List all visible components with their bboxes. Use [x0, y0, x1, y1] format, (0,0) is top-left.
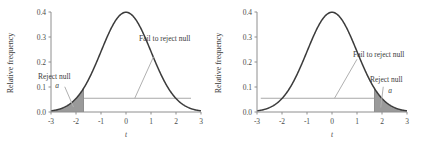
right-chart-svg: 0.4 0.3 0.2 0.1 0.0 -3 -2 -1 0 1 2 3 t R… [210, 0, 421, 146]
fail-leader-line-right [335, 59, 358, 98]
chart-panel-left: 0.4 0.3 0.2 0.1 0.0 -3 -2 -1 0 1 2 3 t R… [0, 0, 210, 146]
x-tick-label-1-left: 1 [149, 117, 153, 126]
reject-null-label-right: Reject null [370, 75, 403, 84]
left-chart-svg: 0.4 0.3 0.2 0.1 0.0 -3 -2 -1 0 1 2 3 t R… [0, 0, 210, 146]
y-tick-label-02-right: 0.2 [243, 58, 253, 67]
x-tick-label-1-right: 1 [355, 117, 359, 126]
fail-to-reject-label-right: Fail to reject null [353, 50, 404, 59]
alpha-symbol-right: a [388, 86, 392, 95]
x-tick-label-neg1-right: -1 [304, 117, 310, 126]
x-tick-label-neg2-right: -2 [279, 117, 285, 126]
y-axis-title-right: Relative frequency [214, 33, 223, 94]
fail-to-reject-label-left: Fail to reject null [139, 34, 190, 43]
y-axis-title-left: Relative frequency [6, 33, 15, 94]
x-tick-label-neg3-left: -3 [48, 117, 54, 126]
y-tick-label-04-right: 0.4 [243, 8, 253, 17]
x-tick-label-neg1-left: -1 [98, 117, 104, 126]
axis-ticks-right [255, 12, 408, 115]
x-tick-label-3-left: 3 [199, 117, 203, 126]
x-tick-label-neg2-left: -2 [73, 117, 79, 126]
distribution-curve-right [257, 12, 407, 111]
x-tick-label-neg3-right: -3 [254, 117, 260, 126]
y-tick-label-03-right: 0.3 [243, 33, 253, 42]
x-tick-label-2-right: 2 [380, 117, 384, 126]
axis-ticks-left [49, 12, 202, 115]
y-tick-label-02-left: 0.2 [37, 58, 47, 67]
y-tick-label-01-right: 0.1 [243, 83, 253, 92]
fail-leader-line-left [135, 57, 154, 99]
y-tick-label-04-left: 0.4 [37, 8, 47, 17]
x-tick-label-0-right: 0 [330, 117, 334, 126]
x-tick-label-2-left: 2 [174, 117, 178, 126]
y-tick-label-01-left: 0.1 [37, 83, 47, 92]
x-axis-title-right: t [331, 130, 334, 139]
y-tick-label-00-right: 0.0 [243, 108, 253, 117]
distribution-curve-left [51, 12, 201, 111]
y-tick-label-03-left: 0.3 [37, 33, 47, 42]
reject-null-label-left: Reject null [38, 72, 71, 81]
alpha-symbol-left: a [55, 81, 59, 90]
x-axis-title-left: t [125, 130, 128, 139]
y-tick-label-00-left: 0.0 [37, 108, 47, 117]
x-tick-label-0-left: 0 [124, 117, 128, 126]
two-panel-figure: 0.4 0.3 0.2 0.1 0.0 -3 -2 -1 0 1 2 3 t R… [0, 0, 421, 146]
chart-panel-right: 0.4 0.3 0.2 0.1 0.0 -3 -2 -1 0 1 2 3 t R… [210, 0, 421, 146]
x-tick-label-3-right: 3 [405, 117, 409, 126]
